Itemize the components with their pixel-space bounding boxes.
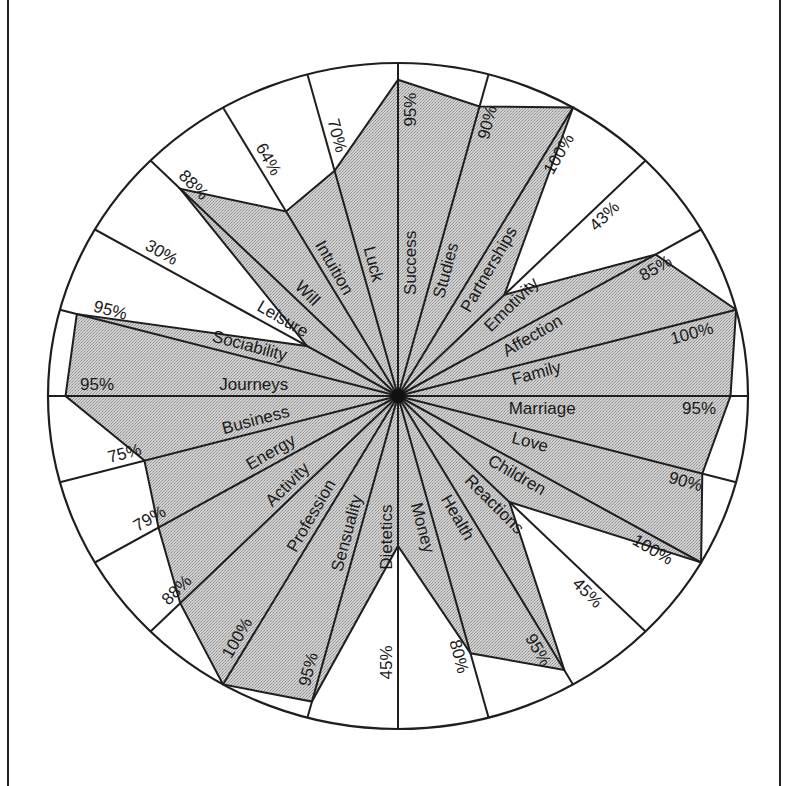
label-success: Success xyxy=(401,231,420,295)
value-label-journeys: 95% xyxy=(80,375,114,394)
value-label-leisure: 30% xyxy=(142,236,181,269)
value-label-reactions: 45% xyxy=(569,574,606,611)
value-label-intuition: 64% xyxy=(252,140,285,179)
value-label-dietetics: 45% xyxy=(377,645,396,679)
center-hub xyxy=(391,389,405,403)
value-label-marriage: 95% xyxy=(682,399,716,418)
value-label-emotivity: 43% xyxy=(586,197,623,234)
label-journeys: Journeys xyxy=(219,375,288,394)
label-marriage: Marriage xyxy=(509,399,576,418)
value-label-success: 95% xyxy=(401,93,420,127)
radar-chart: SuccessStudiesPartnershipsEmotivityAffec… xyxy=(0,0,790,786)
label-dietetics: Dietetics xyxy=(377,505,396,570)
